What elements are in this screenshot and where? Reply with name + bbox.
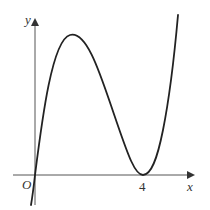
origin-label: O xyxy=(22,178,31,191)
x-axis-label: x xyxy=(187,180,193,193)
graph-figure: y O 4 x xyxy=(0,0,210,210)
y-axis-label: y xyxy=(25,13,31,26)
cubic-curve xyxy=(31,15,178,205)
x-tick-label-4: 4 xyxy=(139,180,146,193)
graph-canvas xyxy=(0,0,210,210)
